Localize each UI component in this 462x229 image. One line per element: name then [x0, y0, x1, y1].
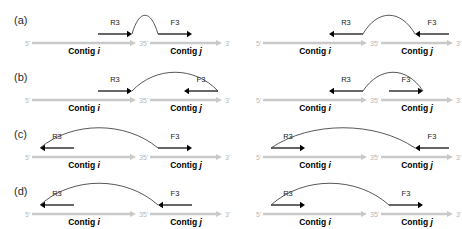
five-prime-label-i: 5': [25, 40, 30, 47]
contig-mate-pair-diagram: (a)5'3'Contig i5'3'Contig jR3F35'3'Conti…: [0, 0, 462, 229]
five-prime-label-i: 5': [256, 40, 261, 47]
contig-i-tip-icon: [361, 97, 367, 103]
five-prime-label-i: 5': [256, 154, 261, 161]
five-prime-label-j: 5': [374, 40, 379, 47]
contig-caption-i: Contig i: [68, 217, 100, 227]
five-prime-label-i: 5': [256, 97, 261, 104]
mate-pair-arc: [363, 72, 423, 91]
contig-caption-j: Contig j: [170, 160, 202, 170]
panel-d-right: 5'3'Contig i5'3'Contig jR3F3: [256, 183, 461, 227]
read-label-f3-right: F3: [428, 132, 437, 141]
contig-caption-i: Contig i: [299, 46, 331, 56]
contig-i-tip-icon: [361, 154, 367, 160]
contig-j-tip-icon: [216, 40, 222, 46]
contig-caption-i: Contig i: [299, 160, 331, 170]
row-label-d: (d): [14, 185, 27, 197]
read-f3-right-head-icon: [187, 145, 192, 151]
read-label-r3-left: R3: [341, 75, 351, 84]
contig-caption-i: Contig i: [68, 46, 100, 56]
panel-b-right: 5'3'Contig i5'3'Contig jR3F3: [256, 72, 461, 113]
contig-i-tip-icon: [130, 154, 136, 160]
contig-caption-j: Contig j: [170, 46, 202, 56]
five-prime-label-j: 5': [374, 211, 379, 218]
read-r3-left-head-icon: [127, 31, 132, 37]
contig-caption-i: Contig i: [68, 103, 100, 113]
read-f3-right-head-icon: [418, 202, 423, 208]
three-prime-label-j: 3': [225, 40, 230, 47]
panel-c-left: 5'3'Contig i5'3'Contig jR3F3: [25, 128, 230, 170]
five-prime-label-i: 5': [25, 97, 30, 104]
panel-a-left: 5'3'Contig i5'3'Contig jR3F3: [25, 15, 230, 56]
row-label-a: (a): [14, 14, 27, 26]
read-label-r3-left: R3: [341, 18, 351, 27]
contig-caption-j: Contig j: [401, 103, 433, 113]
five-prime-label-j: 5': [143, 40, 148, 47]
contig-j-tip-icon: [216, 211, 222, 217]
panel-d-left: 5'3'Contig i5'3'Contig jR3F3: [25, 183, 230, 227]
figure-canvas: (a)5'3'Contig i5'3'Contig jR3F35'3'Conti…: [0, 0, 462, 229]
read-label-r3-left: R3: [110, 75, 120, 84]
panel-b-left: 5'3'Contig i5'3'Contig jR3F3: [25, 72, 230, 113]
panel-a-right: 5'3'Contig i5'3'Contig jR3F3: [256, 15, 461, 56]
contig-caption-j: Contig j: [401, 217, 433, 227]
contig-i-tip-icon: [361, 211, 367, 217]
mate-pair-arc: [363, 15, 415, 34]
row-label-b: (b): [14, 71, 27, 83]
diagram-row-b: (b)5'3'Contig i5'3'Contig jR3F35'3'Conti…: [14, 71, 461, 113]
read-r3-left-head-icon: [329, 88, 334, 94]
contig-i-tip-icon: [130, 97, 136, 103]
read-r3-left-head-icon: [300, 145, 305, 151]
read-r3-left-head-icon: [329, 31, 334, 37]
read-f3-right-head-icon: [187, 31, 192, 37]
contig-caption-j: Contig j: [401, 46, 433, 56]
contig-caption-j: Contig j: [170, 103, 202, 113]
read-label-f3-right: F3: [428, 18, 437, 27]
read-label-f3-right: F3: [402, 189, 411, 198]
panel-c-right: 5'3'Contig i5'3'Contig jR3F3: [256, 128, 461, 170]
row-label-c: (c): [14, 128, 27, 140]
five-prime-label-j: 5': [143, 154, 148, 161]
five-prime-label-j: 5': [374, 154, 379, 161]
read-f3-right-head-icon: [418, 88, 423, 94]
read-f3-right-head-icon: [415, 145, 420, 151]
diagram-row-c: (c)5'3'Contig i5'3'Contig jR3F35'3'Conti…: [14, 128, 461, 170]
diagram-row-d: (d)5'3'Contig i5'3'Contig jR3F35'3'Conti…: [14, 183, 461, 227]
five-prime-label-i: 5': [256, 211, 261, 218]
read-label-f3-right: F3: [171, 18, 180, 27]
five-prime-label-i: 5': [25, 211, 30, 218]
five-prime-label-j: 5': [374, 97, 379, 104]
contig-j-tip-icon: [447, 40, 453, 46]
three-prime-label-j: 3': [456, 40, 461, 47]
contig-i-tip-icon: [361, 40, 367, 46]
read-f3-right-head-icon: [184, 88, 189, 94]
contig-j-tip-icon: [216, 154, 222, 160]
read-f3-right-head-icon: [158, 202, 163, 208]
contig-j-tip-icon: [216, 97, 222, 103]
contig-j-tip-icon: [447, 211, 453, 217]
contig-i-tip-icon: [130, 40, 136, 46]
contig-caption-j: Contig j: [170, 217, 202, 227]
read-label-f3-right: F3: [171, 132, 180, 141]
three-prime-label-j: 3': [225, 211, 230, 218]
contig-j-tip-icon: [447, 154, 453, 160]
contig-caption-i: Contig i: [299, 103, 331, 113]
contig-i-tip-icon: [130, 211, 136, 217]
three-prime-label-j: 3': [456, 154, 461, 161]
contig-caption-i: Contig i: [299, 217, 331, 227]
contig-caption-i: Contig i: [68, 160, 100, 170]
contig-caption-j: Contig j: [401, 160, 433, 170]
five-prime-label-i: 5': [25, 154, 30, 161]
read-r3-left-head-icon: [300, 202, 305, 208]
read-label-f3-right: F3: [171, 189, 180, 198]
three-prime-label-j: 3': [456, 211, 461, 218]
diagram-row-a: (a)5'3'Contig i5'3'Contig jR3F35'3'Conti…: [14, 14, 461, 56]
five-prime-label-j: 5': [143, 97, 148, 104]
contig-j-tip-icon: [447, 97, 453, 103]
three-prime-label-j: 3': [225, 97, 230, 104]
three-prime-label-j: 3': [225, 154, 230, 161]
read-f3-right-head-icon: [415, 31, 420, 37]
five-prime-label-j: 5': [143, 211, 148, 218]
three-prime-label-j: 3': [456, 97, 461, 104]
read-r3-left-head-icon: [127, 88, 132, 94]
mate-pair-arc: [132, 15, 158, 34]
